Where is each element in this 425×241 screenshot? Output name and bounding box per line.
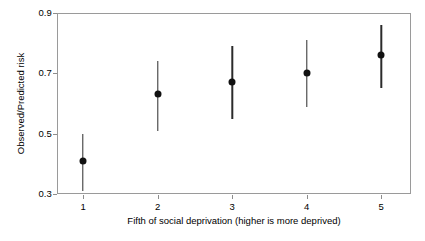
data-point [80, 157, 87, 164]
x-axis-tick-mark [307, 195, 308, 199]
chart-figure: 0.90.70.50.3 Observed/Predicted risk 123… [0, 0, 425, 241]
plot-data-area [57, 13, 411, 194]
x-axis-tick-label: 4 [292, 201, 322, 212]
x-axis-tick-mark [83, 195, 84, 199]
y-axis-tick-mark [53, 194, 57, 195]
x-axis-tick-mark [158, 195, 159, 199]
x-axis-tick-mark [381, 195, 382, 199]
data-point [229, 79, 236, 86]
y-axis-tick-label: 0.7 [38, 68, 52, 78]
x-axis-tick-label: 3 [217, 201, 247, 212]
x-axis-tick-label: 1 [68, 201, 98, 212]
x-axis-tick-label: 2 [143, 201, 173, 212]
y-axis-tick-label: 0.5 [38, 129, 52, 139]
data-point [378, 52, 385, 59]
x-axis-tick-label: 5 [366, 201, 396, 212]
y-axis-title: Observed/Predicted risk [14, 13, 28, 194]
x-axis-title: Fifth of social deprivation (higher is m… [57, 215, 411, 227]
y-axis-tick-label: 0.9 [38, 8, 52, 18]
x-axis-tick-mark [232, 195, 233, 199]
data-point [303, 70, 310, 77]
data-point [154, 91, 161, 98]
y-axis-tick-label: 0.3 [38, 189, 52, 199]
